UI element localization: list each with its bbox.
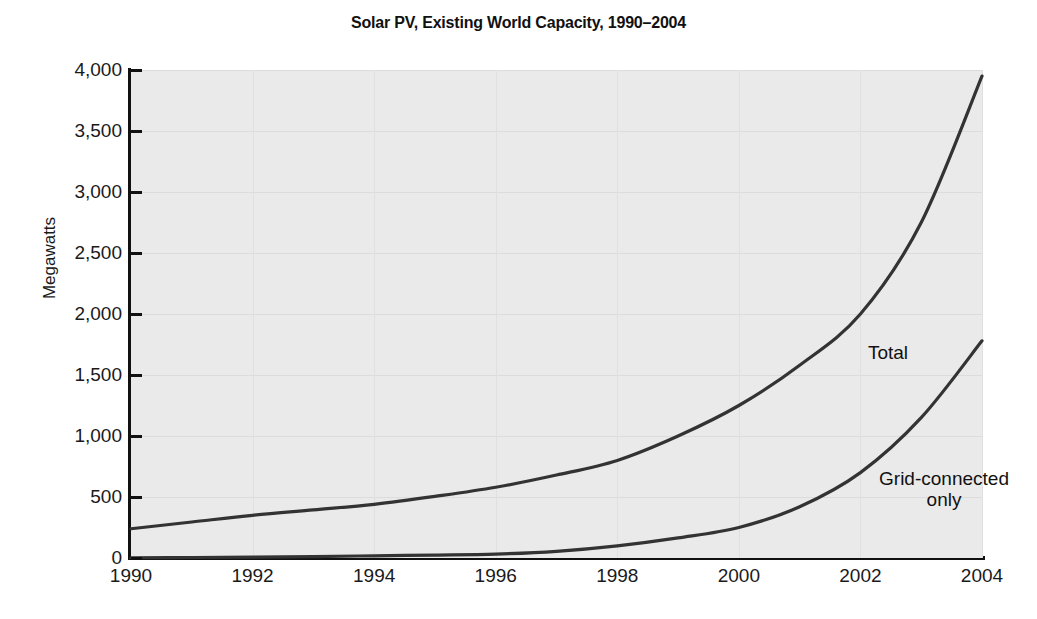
y-tick-mark <box>131 252 142 255</box>
x-tick-label: 2004 <box>922 566 1037 585</box>
y-tick-label: 3,000 <box>14 182 122 201</box>
y-tick-mark <box>131 313 142 316</box>
series-label-grid-connected: Grid-connected only <box>849 468 1037 511</box>
page-title: Solar PV, Existing World Capacity, 1990–… <box>0 14 1037 32</box>
y-tick-mark <box>131 496 142 499</box>
x-tick-label: 2002 <box>800 566 920 585</box>
x-tick-label: 1998 <box>557 566 677 585</box>
y-tick-label: 500 <box>14 487 122 506</box>
y-tick-label: 1,500 <box>14 365 122 384</box>
y-tick-label: 4,000 <box>14 60 122 79</box>
x-tick-label: 1992 <box>193 566 313 585</box>
series-line-total <box>131 76 982 529</box>
y-tick-mark <box>131 191 142 194</box>
series-line-grid-connected <box>131 341 982 558</box>
y-tick-mark <box>131 557 142 560</box>
series-label-total: Total <box>843 342 933 363</box>
y-tick-label: 0 <box>14 548 122 567</box>
x-tick-label: 1994 <box>314 566 434 585</box>
y-tick-mark <box>131 130 142 133</box>
y-axis-tick-labels: 05001,0001,5002,0002,5003,0003,5004,000 <box>10 0 122 619</box>
plot-area: Total Grid-connected only <box>131 70 982 558</box>
y-tick-label: 3,500 <box>14 121 122 140</box>
y-tick-mark <box>131 435 142 438</box>
x-tick-label: 2000 <box>679 566 799 585</box>
y-tick-label: 2,000 <box>14 304 122 323</box>
y-tick-mark <box>131 374 142 377</box>
x-tick-label: 1990 <box>71 566 191 585</box>
y-tick-mark <box>131 69 142 72</box>
y-tick-label: 2,500 <box>14 243 122 262</box>
y-tick-label: 1,000 <box>14 426 122 445</box>
x-tick-label: 1996 <box>436 566 556 585</box>
